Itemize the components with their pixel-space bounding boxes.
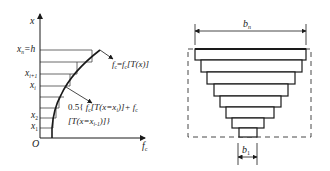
- tick-label-x2: x2: [30, 110, 38, 121]
- layer-5: [214, 84, 288, 96]
- figure-canvas: x O fc xn=h xi+1 xi x2 x1 fc=fc[T(x)] 0.…: [0, 0, 330, 171]
- avg-leader-arrow: [66, 87, 92, 103]
- curve-leader-arrow: [100, 50, 113, 59]
- layer-6: [207, 72, 295, 84]
- layer-2: [232, 118, 264, 128]
- average-formula-line1: 0.5{ fc[T(x=xi)]+ fc: [68, 102, 138, 113]
- b1-label: b1: [242, 144, 250, 156]
- layer-4: [220, 96, 281, 107]
- x-axis-label: fc: [142, 140, 148, 152]
- origin-label: O: [32, 138, 39, 149]
- layer-1: [239, 128, 257, 137]
- bn-label: bn: [243, 18, 251, 30]
- tick-label-xn: xn=h: [16, 44, 35, 55]
- tick-label-xi1: xi+1: [24, 68, 37, 79]
- stepped-layers: [195, 49, 306, 137]
- right-diagram: bn b1: [188, 18, 311, 165]
- left-diagram: x O fc xn=h xi+1 xi x2 x1 fc=fc[T(x)] 0.…: [16, 14, 150, 152]
- tick-label-x1: x1: [30, 121, 38, 132]
- layer-3: [226, 107, 274, 118]
- average-formula-line2: [T(x=xi-1)]}: [68, 116, 110, 127]
- layer-8: [195, 49, 306, 60]
- curve-equation-label: fc=fc[T(x)]: [112, 59, 150, 70]
- y-axis-label: x: [29, 15, 35, 26]
- layer-7: [201, 60, 302, 72]
- tick-label-xi: xi: [29, 80, 36, 91]
